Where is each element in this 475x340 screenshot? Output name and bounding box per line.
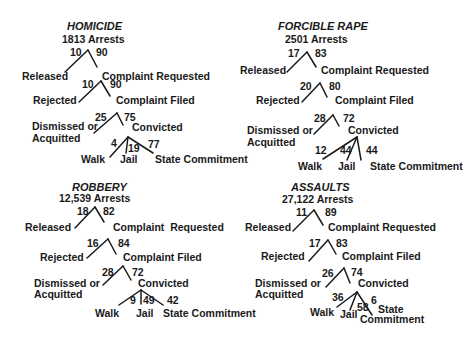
- complaint-filed-label: Complaint Filed: [335, 94, 414, 106]
- complaint-requested-label: Complaint Requested: [113, 221, 224, 233]
- branch-convicted: [333, 115, 339, 126]
- jail-label: Jail: [338, 160, 356, 172]
- rejected-label: Rejected: [33, 94, 77, 106]
- jail-label: Jail: [120, 153, 138, 165]
- released-pct: 18: [77, 205, 89, 217]
- rejected-label: Rejected: [256, 94, 300, 106]
- dismissed-label-line2: Acquitted: [32, 132, 80, 144]
- dismissed-pct: 28: [314, 112, 326, 124]
- dismissed-label-line2: Acquitted: [34, 288, 82, 300]
- walk-label: Walk: [310, 306, 334, 318]
- rejected-label: Rejected: [40, 251, 84, 263]
- complaint-filed-label: Complaint Filed: [342, 250, 421, 262]
- state-commitment-pct: 44: [366, 144, 378, 156]
- released-label: Released: [245, 221, 291, 233]
- branch-complaint-requested: [314, 210, 323, 225]
- complaint-filed-label: Complaint Filed: [123, 251, 202, 263]
- robbery-diagram: ROBBERY 12,539 Arrests 18 82 Released Co…: [0, 170, 240, 340]
- jail-label: Jail: [136, 307, 154, 319]
- jail-pct: 58: [357, 301, 369, 313]
- branch-complaint-filed: [328, 240, 336, 254]
- state-commitment-pct: 77: [148, 138, 160, 150]
- convicted-label: Convicted: [358, 277, 409, 289]
- dismissed-label-line2: Acquitted: [247, 136, 295, 148]
- released-label: Released: [22, 70, 68, 82]
- arrest-count: 2501 Arrests: [285, 33, 348, 45]
- dismissed-pct: 26: [322, 267, 334, 279]
- released-label: Released: [240, 64, 286, 76]
- dismissed-label-line2: Acquitted: [255, 288, 303, 300]
- state-commitment-pct: 42: [167, 294, 179, 306]
- complaint-filed-label: Complaint Filed: [116, 94, 195, 106]
- jail-label: Jail: [340, 308, 358, 320]
- complaint-requested-pct: 90: [96, 46, 108, 58]
- rejected-label: Rejected: [261, 250, 305, 262]
- released-label: Released: [25, 221, 71, 233]
- branch-convicted: [123, 266, 131, 280]
- released-pct: 10: [70, 46, 82, 58]
- arrest-count: 27,122 Arrests: [282, 193, 353, 205]
- assaults-diagram: ASSAULTS 27,122 Arrests 11 89 Released C…: [230, 180, 475, 340]
- complaint-filed-pct: 84: [118, 237, 130, 249]
- walk-pct: 12: [315, 144, 327, 156]
- dismissed-label-line1: Dismissed or: [247, 124, 313, 136]
- state-commitment-label-line2: Commitment: [360, 313, 424, 325]
- crime-title: FORCIBLE RAPE: [278, 20, 368, 32]
- complaint-requested-label: Complaint Requested: [328, 221, 436, 233]
- walk-pct: 36: [332, 291, 344, 303]
- crime-title: HOMICIDE: [67, 20, 122, 32]
- branch-complaint-filed: [320, 83, 327, 97]
- walk-label: Walk: [298, 160, 322, 172]
- crime-title: ASSAULTS: [291, 181, 349, 193]
- state-commitment-label: State Commitment: [370, 160, 463, 172]
- complaint-filed-pct: 90: [110, 78, 122, 90]
- branch-convicted: [117, 113, 123, 125]
- released-pct: 17: [288, 47, 300, 59]
- rejected-pct: 20: [300, 80, 312, 92]
- branch-complaint-filed: [108, 239, 116, 254]
- walk-label: Walk: [95, 307, 119, 319]
- arrest-count: 1813 Arrests: [62, 33, 125, 45]
- branch-state-commitment: [357, 137, 361, 160]
- homicide-diagram: HOMICIDE 1813 Arrests 10 90 Released Com…: [0, 0, 240, 170]
- branch-convicted: [344, 268, 350, 283]
- convicted-label: Convicted: [348, 124, 399, 136]
- rejected-pct: 10: [82, 78, 94, 90]
- branch-complaint-filed: [101, 81, 110, 96]
- forcible-rape-diagram: FORCIBLE RAPE 2501 Arrests 17 83 Release…: [230, 0, 475, 175]
- complaint-requested-label: Complaint Requested: [321, 64, 429, 76]
- arrest-count: 12,539 Arrests: [59, 192, 130, 204]
- state-commitment-pct: 6: [371, 294, 377, 306]
- rejected-pct: 16: [87, 237, 99, 249]
- rejected-pct: 17: [309, 237, 321, 249]
- complaint-requested-pct: 82: [103, 205, 115, 217]
- convicted-pct: 72: [343, 112, 355, 124]
- walk-pct: 4: [111, 137, 117, 149]
- walk-pct: 9: [130, 294, 136, 306]
- walk-label: Walk: [81, 153, 105, 165]
- complaint-requested-pct: 83: [315, 47, 327, 59]
- convicted-label: Convicted: [138, 277, 189, 289]
- complaint-filed-pct: 80: [329, 80, 341, 92]
- complaint-filed-pct: 83: [336, 237, 348, 249]
- dismissed-pct: 28: [102, 266, 114, 278]
- jail-pct: 49: [143, 294, 155, 306]
- jail-pct: 44: [340, 144, 352, 156]
- complaint-requested-pct: 89: [325, 206, 337, 218]
- released-pct: 11: [296, 206, 307, 218]
- convicted-label: Convicted: [132, 121, 183, 133]
- dismissed-label-line1: Dismissed or: [32, 120, 98, 132]
